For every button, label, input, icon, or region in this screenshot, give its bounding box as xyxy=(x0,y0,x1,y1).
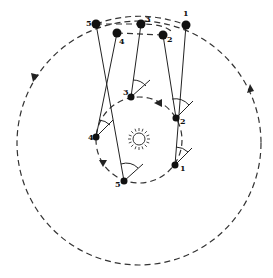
retrograde-motion-diagram: 1 2 3 4 5 1 2 3 4 5 xyxy=(0,0,273,278)
planet-position-1 xyxy=(182,21,191,30)
sun-icon xyxy=(128,128,150,150)
sight-line-5 xyxy=(96,24,124,181)
planet-label-2: 2 xyxy=(167,34,173,44)
sight-line-1 xyxy=(175,25,186,165)
earth-label-1: 1 xyxy=(180,163,186,173)
planet-label-4: 4 xyxy=(119,36,125,46)
earth-position-2 xyxy=(173,115,180,122)
planet-label-3: 3 xyxy=(145,14,151,24)
arrow-icon xyxy=(99,160,107,167)
earth-label-4: 4 xyxy=(88,132,94,142)
arrow-icon xyxy=(154,99,162,107)
planet-label-1: 1 xyxy=(183,8,189,18)
earth-position-5 xyxy=(121,178,128,185)
earth-label-3: 3 xyxy=(123,87,129,97)
angle-mark-3 xyxy=(131,80,150,97)
earth-label-5: 5 xyxy=(115,179,121,189)
planet-position-5 xyxy=(92,20,101,29)
earth-label-2: 2 xyxy=(180,116,186,126)
sight-line-3 xyxy=(131,24,141,97)
planet-label-5: 5 xyxy=(86,18,92,28)
arrow-icon xyxy=(247,84,254,93)
earth-position-1 xyxy=(172,162,179,169)
